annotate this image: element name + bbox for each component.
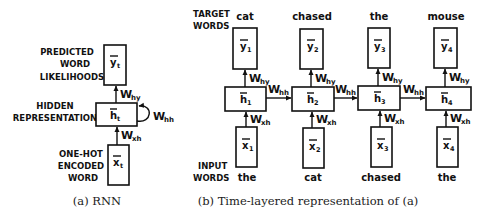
input-label: ONE-HOT ENCODED WORD — [58, 149, 104, 183]
node-var: x — [377, 140, 384, 151]
node-var: y — [110, 57, 117, 68]
node-var: y — [240, 41, 247, 52]
weight-sub: hh — [346, 89, 356, 97]
input-word: the — [438, 172, 457, 183]
input-word: the — [238, 172, 257, 183]
target-word: the — [370, 11, 389, 22]
target-words-label: TARGET WORDS — [193, 9, 230, 31]
weight-hh: W hh — [153, 110, 174, 124]
panel-a: PREDICTED WORD LIKELIHOODS HIDDEN REPRES… — [13, 45, 174, 208]
weight-sub: xh — [132, 135, 142, 143]
node-var: x — [443, 140, 450, 151]
node-sub: 1 — [247, 46, 252, 54]
input-node-xt: x t — [108, 145, 129, 185]
self-loop-arrow — [137, 106, 149, 121]
panel-b: TARGET WORDS INPUT WORDS cat y 1 h 1 x 1… — [193, 9, 471, 208]
output-node-yt: y t — [104, 45, 126, 85]
label-line: REPRESENTATION — [13, 113, 97, 123]
label-line: PREDICTED — [40, 47, 94, 57]
target-word: cat — [236, 11, 254, 22]
label-line: WORD — [60, 59, 90, 69]
weight-sub: xh — [461, 118, 471, 126]
rnn-diagram: PREDICTED WORD LIKELIHOODS HIDDEN REPRES… — [0, 0, 482, 222]
hidden-label: HIDDEN REPRESENTATION — [13, 101, 97, 123]
weight-sub: xh — [261, 119, 271, 127]
time-step-2: chased y 2 h 2 x 2 cat W hy W xh — [292, 11, 337, 183]
label-line: ENCODED — [58, 161, 104, 171]
weight-sub: hh — [279, 89, 289, 97]
node-var: x — [242, 140, 249, 151]
label-line: LIKELIHOODS — [40, 72, 104, 82]
label-line: TARGET — [193, 9, 230, 19]
node-sub: 3 — [381, 46, 386, 54]
node-var: y — [374, 41, 381, 52]
weight-sub: hh — [164, 116, 174, 124]
node-var: y — [307, 41, 314, 52]
input-words-label: INPUT WORDS — [193, 161, 229, 183]
input-word: cat — [304, 172, 322, 183]
node-sub: t — [117, 115, 120, 123]
weight-xh: W xh — [121, 129, 142, 143]
node-var: x — [113, 157, 120, 168]
node-sub: 1 — [247, 99, 252, 107]
weight-sub: xh — [327, 119, 337, 127]
caption-b: (b) Time-layered representation of (a) — [198, 194, 419, 208]
node-sub: t — [120, 162, 123, 170]
hidden-node-ht: h t — [96, 103, 137, 126]
target-word: chased — [292, 11, 332, 22]
node-var: x — [309, 141, 316, 152]
label-line: WORDS — [193, 173, 229, 183]
weight-sub: hy — [393, 77, 403, 85]
node-sub: 2 — [316, 146, 321, 154]
node-sub: t — [117, 62, 120, 70]
weight-hy: W hy — [120, 88, 141, 102]
node-sub: 4 — [448, 46, 453, 54]
target-word: mouse — [427, 11, 464, 22]
weight-sub: hy — [131, 94, 141, 102]
node-sub: 4 — [450, 145, 455, 153]
time-step-1: cat y 1 h 1 x 1 the W hy W xh — [225, 11, 271, 183]
time-step-3: the y 3 h 3 x 3 chased W hy W xh — [358, 11, 405, 183]
node-var: y — [441, 41, 448, 52]
node-sub: 2 — [314, 99, 319, 107]
time-step-4: mouse y 4 h 4 x 4 the W hy W xh — [426, 11, 471, 183]
label-line: WORD — [68, 173, 98, 183]
weight-sub: hy — [460, 77, 470, 85]
label-line: WORDS — [193, 21, 229, 31]
caption-a: (a) RNN — [73, 194, 121, 208]
label-line: HIDDEN — [36, 101, 73, 111]
node-sub: 3 — [384, 145, 389, 153]
weight-sub: hh — [414, 89, 424, 97]
node-sub: 2 — [314, 46, 319, 54]
output-label: PREDICTED WORD LIKELIHOODS — [40, 47, 104, 82]
node-sub: 1 — [249, 145, 254, 153]
weight-sub: xh — [395, 118, 405, 126]
label-line: ONE-HOT — [59, 149, 103, 159]
label-line: INPUT — [198, 161, 227, 171]
node-sub: 3 — [381, 98, 386, 106]
node-sub: 4 — [448, 99, 453, 107]
input-word: chased — [361, 172, 401, 183]
